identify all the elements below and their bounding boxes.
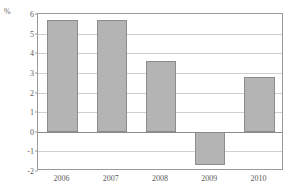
x-axis-tick-label: 2010 (250, 174, 266, 184)
gridline (38, 151, 282, 152)
y-axis-tick-label: 5 (30, 29, 34, 38)
bar (244, 77, 275, 132)
x-axis-tick-label: 2008 (152, 174, 168, 184)
bar-chart: % 6543210-1-2 20062007200820092010 (0, 0, 297, 195)
x-axis-tick-label: 2006 (54, 174, 70, 184)
y-axis-tick-label: 0 (30, 127, 34, 136)
y-axis-tick-mark (35, 33, 38, 34)
bar (97, 20, 128, 132)
y-axis-tick-label: 3 (30, 68, 34, 77)
plot-area: 6543210-1-2 (37, 13, 283, 170)
y-axis-unit-label: % (4, 7, 11, 17)
y-axis-tick-mark (35, 92, 38, 93)
y-axis-tick-label: 6 (30, 10, 34, 19)
bar (195, 132, 226, 165)
y-axis-tick-mark (35, 72, 38, 73)
x-axis-tick-label: 2007 (103, 174, 119, 184)
bar (146, 61, 177, 132)
y-axis-tick-label: -1 (27, 147, 34, 156)
bar (47, 20, 78, 132)
y-axis-tick-label: 2 (30, 88, 34, 97)
y-axis-tick-label: 4 (30, 49, 34, 58)
y-axis-tick-mark (35, 53, 38, 54)
zero-gridline (38, 132, 282, 133)
y-axis-tick-mark (35, 151, 38, 152)
x-axis-tick-label: 2009 (201, 174, 217, 184)
y-axis-tick-mark (35, 131, 38, 132)
y-axis-tick-mark (35, 112, 38, 113)
y-axis-tick-mark (35, 14, 38, 15)
y-axis-tick-label: 1 (30, 108, 34, 117)
y-axis-tick-mark (35, 171, 38, 172)
y-axis-tick-label: -2 (27, 167, 34, 176)
